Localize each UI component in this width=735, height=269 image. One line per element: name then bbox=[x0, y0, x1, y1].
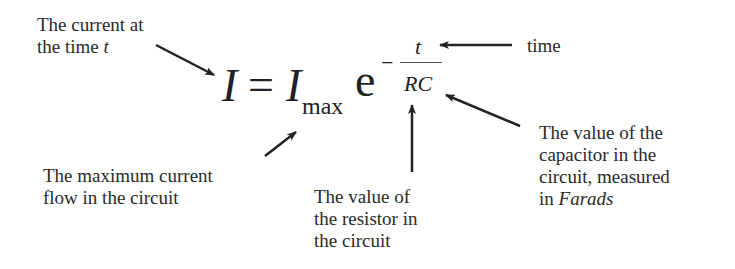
arrows-layer bbox=[0, 0, 735, 269]
arrow-to-imax bbox=[265, 132, 296, 156]
arrow-to-capacitor bbox=[446, 95, 520, 126]
arrow-to-current bbox=[156, 45, 214, 75]
